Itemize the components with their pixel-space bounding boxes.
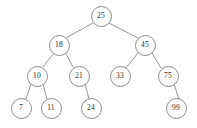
- tree-node-label: 11: [47, 104, 55, 112]
- tree-node-7: 7: [11, 98, 32, 119]
- tree-node-18: 18: [49, 35, 70, 56]
- tree-node-label: 18: [55, 41, 63, 49]
- tree-node-label: 45: [141, 41, 149, 49]
- binary-tree-diagram: 251845102133757112499: [0, 0, 197, 128]
- tree-node-label: 24: [87, 104, 95, 112]
- tree-node-75: 75: [158, 66, 179, 87]
- tree-node-label: 99: [172, 104, 180, 112]
- tree-node-10: 10: [27, 66, 48, 87]
- tree-node-label: 75: [164, 72, 172, 80]
- tree-node-label: 21: [75, 72, 83, 80]
- tree-node-11: 11: [41, 98, 62, 119]
- tree-node-layer: 251845102133757112499: [0, 0, 197, 128]
- tree-node-33: 33: [110, 66, 131, 87]
- tree-node-21: 21: [69, 66, 90, 87]
- tree-node-label: 7: [19, 104, 23, 112]
- tree-node-label: 10: [33, 72, 41, 80]
- tree-node-99: 99: [166, 98, 187, 119]
- tree-node-45: 45: [135, 35, 156, 56]
- tree-node-25: 25: [91, 6, 112, 27]
- tree-node-24: 24: [81, 98, 102, 119]
- tree-node-label: 33: [116, 72, 124, 80]
- tree-node-label: 25: [97, 12, 105, 19]
